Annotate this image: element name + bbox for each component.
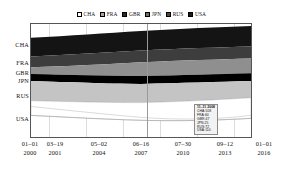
legend-swatch-cha: [77, 12, 82, 17]
legend-swatch-fra: [100, 12, 105, 17]
legend-label-gbr: GBR: [129, 11, 140, 17]
hover-tooltip: 11–11 2008 CHA:108 FRA:60 GBR:47 JPN:25 …: [194, 104, 218, 135]
x-axis-labels: 01–01 2000 03–19 2001 05–02 2004 06–16 2…: [0, 140, 283, 170]
legend-item-usa[interactable]: USA: [188, 11, 206, 17]
x-tick-2: 05–02 2004: [91, 140, 107, 157]
x-tick-5-year: 2013: [217, 149, 233, 158]
x-tick-1-date: 03–19: [47, 140, 63, 149]
x-tick-0-year: 2000: [22, 149, 38, 158]
legend-label-jpn: JPN: [152, 11, 161, 17]
x-tick-6-year: 2016: [256, 149, 272, 158]
legend-swatch-jpn: [145, 12, 150, 17]
plot-area[interactable]: [30, 23, 252, 138]
y-label-usa: USA: [16, 115, 29, 122]
y-label-gbr: GBR: [16, 69, 29, 76]
x-tick-2-date: 05–02: [91, 140, 107, 149]
legend-item-cha[interactable]: CHA: [77, 11, 95, 17]
y-label-rus: RUS: [16, 92, 29, 99]
tooltip-value-usa: 110: [205, 128, 211, 132]
x-tick-5: 09–12 2013: [217, 140, 233, 157]
x-tick-4: 07–30 2010: [175, 140, 191, 157]
cursor-line[interactable]: [147, 24, 148, 137]
legend-label-rus: RUS: [173, 11, 184, 17]
legend-item-jpn[interactable]: JPN: [145, 11, 161, 17]
streamgraph-figure: CHA FRA GBR JPN RUS USA CHA FRA GBR JPN …: [0, 0, 283, 172]
x-tick-4-year: 2010: [175, 149, 191, 158]
x-tick-6-date: 01–01: [256, 140, 272, 149]
legend-swatch-usa: [188, 12, 193, 17]
legend-label-usa: USA: [195, 11, 206, 17]
legend-label-cha: CHA: [83, 11, 95, 17]
legend-label-fra: FRA: [107, 11, 118, 17]
tooltip-row-usa: USA:110: [197, 129, 215, 133]
x-tick-0-date: 01–01: [22, 140, 38, 149]
x-tick-4-date: 07–30: [175, 140, 191, 149]
y-label-cha: CHA: [15, 41, 29, 48]
x-tick-1-year: 2001: [47, 149, 63, 158]
x-tick-6: 01–01 2016: [256, 140, 272, 157]
legend-item-fra[interactable]: FRA: [100, 11, 117, 17]
legend-swatch-rus: [166, 12, 171, 17]
x-tick-0: 01–01 2000: [22, 140, 38, 157]
legend-item-rus[interactable]: RUS: [166, 11, 183, 17]
x-tick-1: 03–19 2001: [47, 140, 63, 157]
legend-item-gbr[interactable]: GBR: [122, 11, 140, 17]
x-tick-2-year: 2004: [91, 149, 107, 158]
y-label-jpn: JPN: [18, 77, 29, 84]
legend-swatch-gbr: [122, 12, 127, 17]
x-tick-3-year: 2007: [133, 149, 149, 158]
x-tick-3-date: 06–16: [133, 140, 149, 149]
y-label-fra: FRA: [16, 59, 29, 66]
y-axis-labels: CHA FRA GBR JPN RUS USA: [0, 23, 29, 138]
band-rus: [31, 81, 251, 103]
x-tick-5-date: 09–12: [217, 140, 233, 149]
chart-legend: CHA FRA GBR JPN RUS USA: [0, 11, 283, 17]
x-tick-3: 06–16 2007: [133, 140, 149, 157]
